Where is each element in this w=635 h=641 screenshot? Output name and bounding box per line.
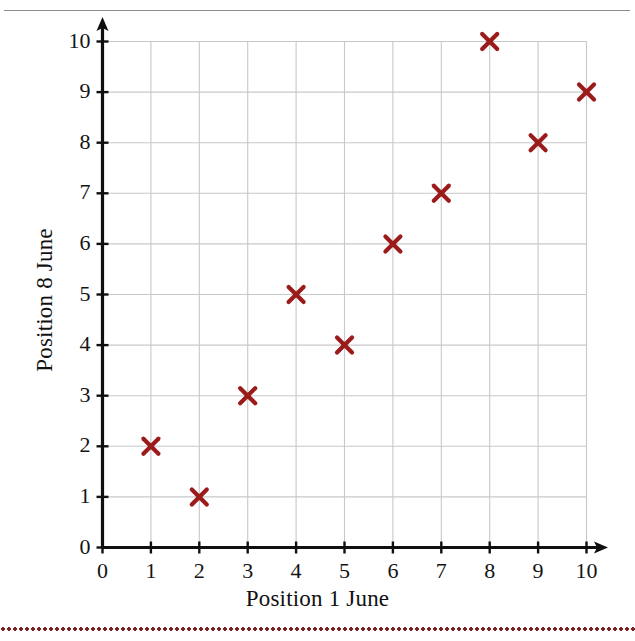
x-axis-title: Position 1 June [0,586,635,612]
y-axis-tick-label: 2 [51,432,91,458]
x-axis-tick-label: 9 [518,558,558,584]
y-axis-tick-label: 7 [51,179,91,205]
axis-ticks-group [97,42,587,554]
axes-group [97,17,609,554]
bottom-dotted-rule [0,627,635,631]
x-axis-tick-label: 4 [276,558,316,584]
y-axis-tick-label: 3 [51,382,91,408]
x-axis-tick-label: 7 [421,558,461,584]
x-axis-tick-label: 8 [470,558,510,584]
gridlines-group [103,42,587,548]
y-axis-tick-label: 1 [51,483,91,509]
y-axis-title: Position 8 June [32,228,58,372]
x-axis-tick-label: 2 [179,558,219,584]
x-axis-tick-label: 10 [567,558,607,584]
scatter-plot-figure: 012345678910 012345678910 Position 1 Jun… [0,0,635,641]
x-axis-tick-label: 0 [83,558,123,584]
scatter-plot-canvas [0,0,635,641]
y-axis-tick-label: 10 [51,28,91,54]
y-axis-tick-label: 8 [51,129,91,155]
y-axis-tick-label: 0 [51,534,91,560]
x-axis-tick-label: 1 [131,558,171,584]
x-axis-tick-label: 5 [325,558,365,584]
x-axis-tick-label: 6 [373,558,413,584]
data-markers-group [143,34,594,504]
y-axis-tick-label: 9 [51,78,91,104]
x-axis-tick-label: 3 [228,558,268,584]
